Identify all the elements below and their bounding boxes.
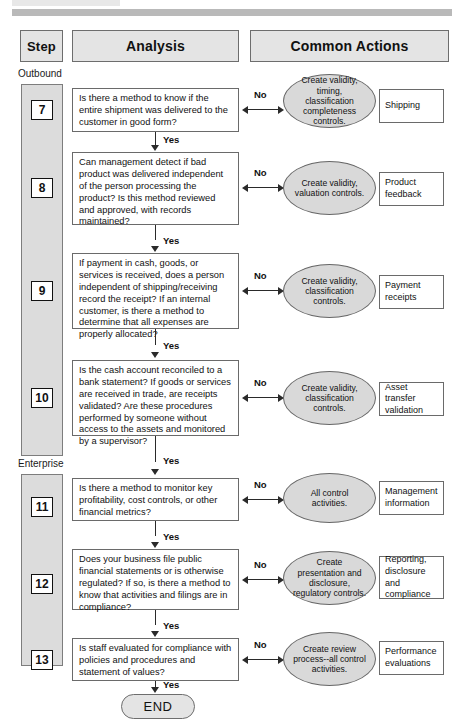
question-box-12: Does your business file public financial…: [72, 549, 239, 610]
step-badge-7: 7: [31, 100, 53, 120]
yes-line-12: [155, 610, 156, 625]
arrow-shaft: [247, 659, 279, 660]
action-ellipse-9: Create validity, classification controls…: [283, 264, 376, 318]
yes-arrowhead-10: [151, 469, 159, 475]
yes-arrowhead-11: [151, 542, 159, 548]
yes-line-9: [155, 329, 156, 345]
arrow-shaft: [247, 579, 279, 580]
no-label-13: No: [254, 639, 267, 650]
yes-arrowhead-13: [151, 687, 159, 693]
action-ellipse-13: Create review process--all control activ…: [283, 632, 376, 686]
step-badge-10: 10: [31, 388, 53, 408]
end-terminator: END: [121, 694, 195, 719]
no-label-9: No: [254, 270, 267, 281]
column-header-step-label: Step: [27, 39, 56, 54]
section-label-outbound: Outbound: [18, 68, 62, 79]
no-arrow-12: [242, 573, 284, 587]
outcome-box-11: Management information: [379, 481, 444, 515]
action-ellipse-10: Create validity, classification controls…: [283, 371, 376, 425]
column-header-common-actions: Common Actions: [250, 30, 449, 62]
outcome-box-12: Reporting, disclosure and compliance: [379, 556, 444, 599]
no-label-7: No: [254, 89, 267, 100]
column-header-common-actions-label: Common Actions: [290, 38, 408, 54]
outcome-box-7: Shipping: [379, 89, 444, 123]
step-badge-11: 11: [31, 497, 53, 517]
question-box-7: Is there a method to know if the entire …: [72, 88, 239, 132]
action-ellipse-8: Create validity, valuation controls.: [283, 161, 376, 215]
step-badge-13: 13: [31, 650, 53, 670]
outcome-box-10: Asset transfer validation: [379, 382, 444, 416]
no-arrow-10: [242, 391, 284, 405]
yes-label-12: Yes: [163, 620, 179, 631]
yes-line-11: [155, 521, 156, 536]
arrow-shaft: [247, 397, 279, 398]
yes-line-8: [155, 225, 156, 240]
section-label-enterprise: Enterprise: [18, 458, 64, 469]
no-label-11: No: [254, 479, 267, 490]
yes-arrowhead-8: [151, 246, 159, 252]
yes-line-7: [155, 132, 156, 146]
flowchart-page: Step Analysis Common Actions Outbound En…: [0, 0, 465, 726]
question-box-11: Is there a method to monitor key profita…: [72, 478, 239, 521]
no-label-10: No: [254, 377, 267, 388]
arrow-shaft: [247, 499, 279, 500]
top-accent-block: [12, 0, 120, 6]
yes-label-10: Yes: [163, 455, 179, 466]
action-ellipse-12: Create presentation and disclosure, regu…: [283, 551, 376, 605]
no-arrow-11: [242, 493, 284, 507]
end-label: END: [144, 699, 173, 714]
outcome-box-13: Performance evaluations: [379, 641, 444, 675]
yes-label-8: Yes: [163, 235, 179, 246]
outcome-box-8: Product feedback: [379, 172, 444, 206]
action-ellipse-11: All control activities.: [283, 473, 376, 523]
top-rule-bar: [12, 9, 452, 16]
yes-arrowhead-7: [151, 145, 159, 151]
question-box-9: If payment in cash, goods, or services i…: [72, 253, 239, 329]
question-box-10: Is the cash account reconciled to a bank…: [72, 360, 239, 436]
column-header-step: Step: [20, 30, 63, 62]
step-badge-12: 12: [31, 574, 53, 594]
question-box-13: Is staff evaluated for compliance with p…: [72, 638, 239, 681]
no-arrow-8: [242, 181, 284, 195]
yes-label-9: Yes: [163, 340, 179, 351]
outcome-box-9: Payment receipts: [379, 275, 444, 309]
arrow-shaft: [247, 187, 279, 188]
question-box-8: Can management detect if bad product was…: [72, 152, 239, 225]
yes-line-10: [155, 436, 156, 462]
arrow-shaft: [247, 109, 279, 110]
yes-label-13: Yes: [163, 679, 179, 690]
yes-label-11: Yes: [163, 531, 179, 542]
no-arrow-7: [242, 103, 284, 117]
yes-label-7: Yes: [163, 134, 179, 145]
yes-arrowhead-12: [151, 631, 159, 637]
no-arrow-9: [242, 284, 284, 298]
step-badge-8: 8: [31, 178, 53, 198]
no-label-8: No: [254, 167, 267, 178]
column-header-analysis: Analysis: [72, 30, 239, 62]
no-arrow-13: [242, 653, 284, 667]
arrow-shaft: [247, 290, 279, 291]
step-badge-9: 9: [31, 281, 53, 301]
no-label-12: No: [254, 559, 267, 570]
column-header-analysis-label: Analysis: [126, 38, 185, 54]
action-ellipse-7: Create validity, timing, classification …: [283, 74, 376, 128]
yes-arrowhead-9: [151, 352, 159, 358]
